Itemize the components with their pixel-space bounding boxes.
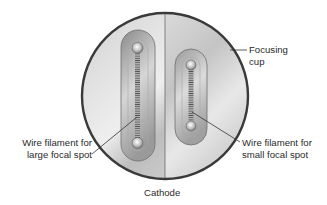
label-large-filament: Wire filament for large focal spot — [8, 137, 92, 160]
cathode-diagram — [0, 0, 327, 205]
label-focusing-cup: Focusing cup — [249, 44, 288, 67]
label-line: Focusing — [249, 44, 288, 56]
label-line: cup — [249, 56, 288, 68]
focusing-cup — [82, 13, 248, 179]
filament-post-bottom — [132, 138, 143, 149]
filament-post-top — [132, 43, 143, 54]
filament-post-top — [186, 60, 196, 70]
label-small-filament: Wire filament for small focal spot — [242, 137, 312, 160]
label-line: Wire filament for — [8, 137, 92, 149]
figure-title: Cathode — [144, 187, 180, 199]
label-line: small focal spot — [242, 149, 312, 161]
label-line: Wire filament for — [242, 137, 312, 149]
label-line: large focal spot — [8, 149, 92, 161]
filament-post-bottom — [186, 121, 196, 131]
